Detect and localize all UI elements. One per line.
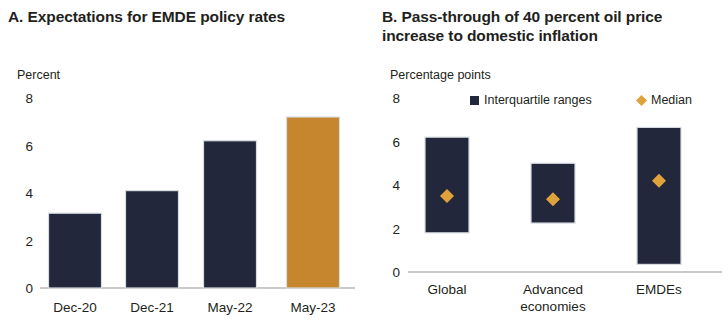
panel-b-legend-item-interquartile-ranges: Interquartile ranges [470,93,592,107]
legend-label: Median [651,93,692,107]
panel-a-ytick-0: 0 [25,281,33,296]
panel-b-ytick-2: 2 [392,222,400,237]
panel-a-category-label-dec-20: Dec-20 [53,300,97,315]
panel-a-axis-unit: Percent [17,68,60,82]
panel-a-svg: 02468Dec-20Dec-21May-22May-23 [0,0,370,323]
panel-a-plot: 02468Dec-20Dec-21May-22May-23 [0,0,370,323]
panel-a-bar-dec-20 [49,213,102,288]
legend-label: Interquartile ranges [484,93,592,107]
panel-a-ytick-2: 2 [25,234,33,249]
panel-b-median-marker-advanced-economies [546,192,560,206]
panel-b-category-label-global: Global [427,282,466,297]
panel-b-ytick-0: 0 [392,265,400,280]
panel-b-axis-unit: Percentage points [390,68,491,82]
panel-b-ytick-6: 6 [392,135,400,150]
panel-a-ytick-6: 6 [25,139,33,154]
panel-a-bar-may-22 [204,141,257,288]
panel-a-bar-dec-21 [126,191,179,288]
panel-a-bar-may-23 [287,117,340,288]
panel-a-category-label-may-23: May-23 [290,300,335,315]
category-label-line: Global [427,282,466,297]
panel-b-iqr-box-global [425,137,469,233]
panel-b-category-label-advanced-economies: Advancedeconomies [520,282,586,314]
category-label-line: economies [520,299,586,314]
panel-b-legend-item-median: Median [636,93,692,107]
category-label-line: EMDEs [636,282,682,297]
panel-a: A. Expectations for EMDE policy rates Pe… [0,0,370,323]
panel-b-median-marker-emdes [652,174,666,188]
category-label-line: Advanced [523,282,583,297]
panel-b-median-marker-global [440,189,454,203]
panel-a-ytick-4: 4 [25,186,33,201]
legend-diamond-icon [636,95,647,106]
panel-b-title: B. Pass-through of 40 percent oil price … [382,7,725,46]
panel-a-category-label-dec-21: Dec-21 [130,300,174,315]
panel-b-ytick-4: 4 [392,178,400,193]
legend-square-icon [470,96,479,105]
panel-b-svg: 02468Interquartile rangesMedianGlobalAdv… [370,0,725,323]
panel-b-plot: 02468Interquartile rangesMedianGlobalAdv… [370,0,725,323]
panel-b-ytick-8: 8 [392,91,400,106]
figure-container: A. Expectations for EMDE policy rates Pe… [0,0,725,323]
panel-a-ytick-8: 8 [25,91,33,106]
panel-a-title: A. Expectations for EMDE policy rates [8,7,366,26]
panel-b-iqr-box-emdes [637,127,681,264]
panel-b: B. Pass-through of 40 percent oil price … [370,0,725,323]
panel-b-category-label-emdes: EMDEs [636,282,682,297]
panel-b-iqr-box-advanced-economies [531,163,575,223]
panel-a-category-label-may-22: May-22 [207,300,252,315]
